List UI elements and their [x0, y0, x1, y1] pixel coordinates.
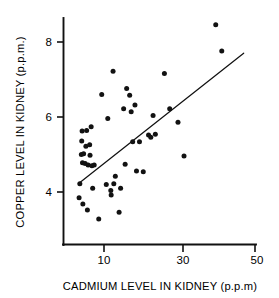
- data-point: [141, 169, 146, 174]
- data-point: [137, 139, 142, 144]
- data-point: [213, 22, 218, 27]
- data-point: [117, 210, 122, 215]
- data-point: [87, 142, 92, 147]
- data-point: [85, 208, 90, 213]
- data-point: [92, 163, 97, 168]
- data-point: [124, 86, 129, 91]
- scatter-plot-figure: 8 6 4 10 30 50 CADMIUM LEVEL IN KIDNEY (…: [0, 0, 279, 298]
- data-point: [121, 106, 126, 111]
- data-point: [105, 116, 110, 121]
- data-point: [113, 174, 118, 179]
- data-point: [79, 139, 84, 144]
- y-tick-label-8: 8: [46, 36, 52, 48]
- data-point: [130, 139, 135, 144]
- data-point: [162, 71, 167, 76]
- data-point: [81, 151, 86, 156]
- data-point: [118, 186, 123, 191]
- regression-line: [78, 53, 243, 184]
- x-tick-label-50: 50: [251, 254, 264, 266]
- data-point: [175, 120, 180, 125]
- data-point: [89, 124, 94, 129]
- data-point: [111, 181, 116, 186]
- data-point: [108, 188, 113, 193]
- y-tick-label-6: 6: [46, 111, 52, 123]
- data-point: [148, 135, 153, 140]
- data-point: [132, 103, 137, 108]
- x-axis-title: CADMIUM LEVEL IN KIDNEY (p.p.m): [63, 280, 258, 292]
- data-point: [90, 186, 95, 191]
- data-point: [134, 169, 139, 174]
- x-axis-tick-labels: 10 30 50: [98, 254, 264, 266]
- data-point: [99, 92, 104, 97]
- x-tick-label-10: 10: [98, 254, 111, 266]
- data-point: [127, 93, 132, 98]
- data-point: [182, 154, 187, 159]
- data-point: [151, 113, 156, 118]
- data-point: [104, 182, 109, 187]
- data-point-group: [77, 22, 225, 221]
- data-point: [153, 132, 158, 137]
- data-point: [219, 49, 224, 54]
- data-point: [167, 106, 172, 111]
- y-tick-label-4: 4: [46, 186, 53, 198]
- data-point: [84, 128, 89, 133]
- plot-canvas: 8 6 4 10 30 50 CADMIUM LEVEL IN KIDNEY (…: [0, 0, 279, 298]
- data-point: [88, 153, 93, 158]
- data-point: [77, 181, 82, 186]
- y-axis-tick-labels: 8 6 4: [46, 36, 53, 198]
- data-point: [80, 128, 85, 133]
- data-point: [77, 195, 82, 200]
- data-point: [123, 162, 128, 167]
- data-point: [80, 202, 85, 207]
- data-point: [109, 193, 114, 198]
- data-point: [96, 217, 101, 222]
- data-point: [111, 69, 116, 74]
- x-tick-label-30: 30: [177, 254, 190, 266]
- axis-frame: [63, 18, 256, 245]
- y-axis-title: COPPER LEVEL IN KIDNEY (p.p.m.): [14, 36, 26, 228]
- data-point: [129, 109, 134, 114]
